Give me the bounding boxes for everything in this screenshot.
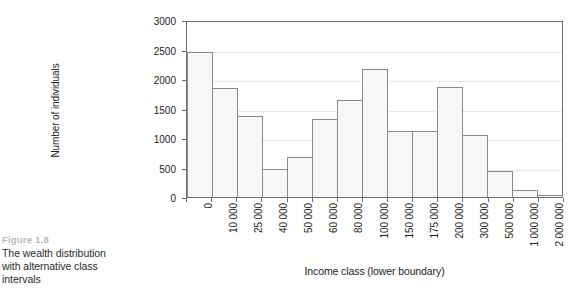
bar: [512, 190, 538, 197]
x-axis-tick-mark: [337, 198, 338, 202]
bar: [262, 169, 288, 197]
x-axis-tick-label: 10 000: [228, 203, 239, 261]
x-axis-tick-label: 100 000: [379, 203, 390, 261]
figure-caption-line: intervals: [2, 273, 142, 286]
bar: [537, 195, 563, 197]
x-axis-tick-mark: [312, 198, 313, 202]
x-axis-tick-mark: [387, 198, 388, 202]
y-axis-tick-label: 0: [140, 193, 176, 204]
bar-series: [187, 22, 562, 197]
y-axis-title: Number of individuals: [50, 21, 61, 201]
bar: [287, 157, 313, 197]
figure-caption-line: The wealth distribution: [2, 247, 142, 260]
figure-number: Figure 1.8: [2, 233, 142, 246]
bar: [312, 119, 338, 197]
x-axis-title: Income class (lower boundary): [186, 265, 563, 277]
y-axis-tick-label: 1000: [140, 134, 176, 145]
plot-area: [186, 21, 563, 198]
x-axis-tick-label: 2 000 000: [554, 203, 565, 261]
x-axis-tick-labels: 010 00025 00040 00050 00060 00080 000100…: [186, 203, 563, 261]
y-axis-tick-label: 3000: [140, 16, 176, 27]
x-axis-tick-label: 500 000: [504, 203, 515, 261]
x-axis-tick-mark: [211, 198, 212, 202]
figure-caption-line: with alternative class: [2, 260, 142, 273]
bar: [212, 88, 238, 197]
y-axis-tick-label: 1500: [140, 104, 176, 115]
x-axis-tick-mark: [563, 198, 564, 202]
bar: [387, 131, 413, 197]
x-axis-tick-mark: [437, 198, 438, 202]
x-axis-tick-label: 80 000: [353, 203, 364, 261]
bar: [362, 69, 388, 197]
x-axis-tick-mark: [462, 198, 463, 202]
x-axis-tick-label: 1 000 000: [529, 203, 540, 261]
x-axis-tick-mark: [186, 198, 187, 202]
x-axis-tick-mark: [362, 198, 363, 202]
x-axis-tick-mark: [287, 198, 288, 202]
bar: [337, 100, 363, 197]
bar: [187, 52, 213, 197]
bar: [237, 116, 263, 197]
x-axis-tick-label: 200 000: [454, 203, 465, 261]
bar: [412, 131, 438, 197]
bar: [462, 135, 488, 197]
x-axis-tick-label: 150 000: [404, 203, 415, 261]
x-axis-tick-mark: [488, 198, 489, 202]
y-axis-tick-labels: 050010001500200025003000: [140, 21, 176, 198]
x-axis-tick-mark: [538, 198, 539, 202]
figure-caption-text: The wealth distributionwith alternative …: [2, 247, 142, 287]
x-axis-tick-mark: [236, 198, 237, 202]
x-axis-tick-mark: [412, 198, 413, 202]
y-axis-tick-label: 2500: [140, 45, 176, 56]
x-axis-tick-label: 300 000: [479, 203, 490, 261]
x-axis-tick-mark: [513, 198, 514, 202]
y-axis-tick-label: 500: [140, 163, 176, 174]
x-axis-tick-label: 0: [203, 203, 214, 261]
bar: [437, 87, 463, 197]
x-axis-tick-mark: [261, 198, 262, 202]
x-axis-tick-label: 175 000: [429, 203, 440, 261]
x-axis-tick-label: 50 000: [303, 203, 314, 261]
y-axis-tick-label: 2000: [140, 75, 176, 86]
figure-caption: Figure 1.8 The wealth distributionwith a…: [2, 233, 142, 287]
x-axis-tick-label: 60 000: [328, 203, 339, 261]
x-axis-tick-label: 40 000: [278, 203, 289, 261]
x-axis-tick-label: 25 000: [253, 203, 264, 261]
bar: [487, 171, 513, 197]
